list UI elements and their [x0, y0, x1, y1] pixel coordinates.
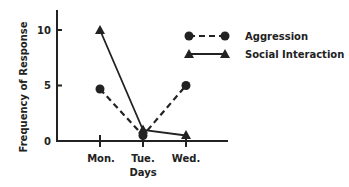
x-tick-label: Wed.: [172, 153, 200, 164]
legend-label-aggression: Aggression: [245, 31, 308, 42]
x-tick-label: Tue.: [131, 153, 154, 164]
series-aggression-marker: [182, 81, 191, 90]
legend-circle-icon: [185, 32, 194, 41]
legend: Aggression Social Interaction: [184, 31, 344, 60]
legend-label-social-interaction: Social Interaction: [245, 49, 344, 60]
legend-circle-icon: [221, 32, 230, 41]
series-social-marker: [95, 25, 105, 34]
series-aggression-marker: [96, 85, 105, 94]
x-tick-label: Mon.: [87, 153, 115, 164]
x-axis-label: Days: [129, 167, 156, 178]
series-social-line: [100, 30, 186, 136]
y-tick-label: 5: [44, 80, 51, 91]
y-axis-label: Frequency of Response: [18, 21, 29, 152]
series-social-marker: [138, 125, 148, 134]
y-tick-label: 0: [44, 136, 51, 147]
y-tick-label: 10: [37, 25, 51, 36]
chart: 0 5 10 Frequency of Response Mon. Tue. W…: [0, 0, 349, 187]
